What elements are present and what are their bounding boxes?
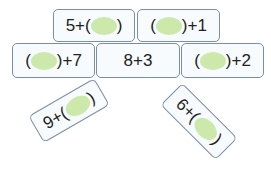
card-blank-plus-7: ()+7 xyxy=(12,43,95,78)
card-blank-plus-1: ()+1 xyxy=(137,9,220,42)
card-prefix: 5+( xyxy=(66,16,91,36)
card-9-plus-blank: 9+() xyxy=(28,78,109,143)
card-6-plus-blank: 6+() xyxy=(160,83,237,160)
answer-blank[interactable] xyxy=(31,52,57,70)
answer-blank[interactable] xyxy=(156,17,182,35)
card-suffix: )+1 xyxy=(182,16,207,36)
card-suffix: ) xyxy=(117,16,123,36)
card-suffix: )+2 xyxy=(226,51,251,71)
center-expression: 8+3 xyxy=(124,51,153,71)
answer-blank[interactable] xyxy=(91,17,117,35)
card-suffix: )+7 xyxy=(57,51,82,71)
card-5-plus-blank: 5+() xyxy=(53,9,135,42)
answer-blank[interactable] xyxy=(200,52,226,70)
card-blank-plus-2: ()+2 xyxy=(181,43,264,78)
card-center-8-plus-3: 8+3 xyxy=(96,43,180,78)
